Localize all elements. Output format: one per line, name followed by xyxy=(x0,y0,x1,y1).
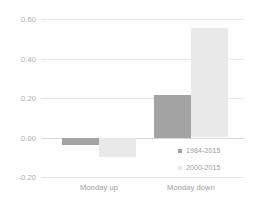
bar-monday-down-2000-2015 xyxy=(191,28,228,138)
x-axis-label-monday-down: Monday down xyxy=(167,183,215,192)
legend-label-1984-2015: 1984-2015 xyxy=(186,147,220,154)
y-tick-label-2: 0.20 xyxy=(21,94,36,103)
legend-swatch-icon-2000-2015 xyxy=(178,166,182,170)
gridline-0.60: 0.60 xyxy=(41,19,244,20)
y-tick-label-3: 0.00 xyxy=(21,133,36,142)
bar-chart: 0.60 0.40 0.20 0.00 -0.20 Monday up Mond… xyxy=(0,0,253,209)
gridline--0.20: -0.20 xyxy=(41,177,244,178)
y-tick-label-1: 0.40 xyxy=(21,54,36,63)
y-tick-label-4: -0.20 xyxy=(18,173,36,182)
bar-monday-up-1984-2015 xyxy=(62,138,99,146)
y-tick-label-0: 0.60 xyxy=(21,15,36,24)
bar-monday-up-2000-2015 xyxy=(99,138,136,158)
legend-item-2000-2015: 2000-2015 xyxy=(178,159,220,176)
bar-monday-down-1984-2015 xyxy=(154,95,191,138)
legend-swatch-icon-1984-2015 xyxy=(178,149,182,153)
chart-legend: 1984-2015 2000-2015 xyxy=(178,142,220,176)
legend-item-1984-2015: 1984-2015 xyxy=(178,142,220,159)
x-axis-label-monday-up: Monday up xyxy=(80,183,118,192)
legend-label-2000-2015: 2000-2015 xyxy=(186,164,220,171)
